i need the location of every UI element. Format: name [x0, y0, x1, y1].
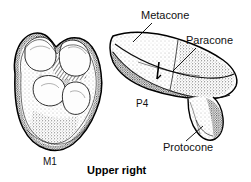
label-m1: M1 [43, 157, 57, 167]
figure-caption: Upper right [87, 165, 146, 176]
m1-molar-drawing [10, 28, 110, 156]
label-paracone: Paracone [186, 35, 233, 46]
tooth-illustration [0, 0, 251, 182]
label-p4: P4 [136, 99, 148, 109]
label-protocone: Protocone [163, 142, 213, 153]
label-metacone: Metacone [141, 10, 189, 21]
tooth-anatomy-figure: Metacone Paracone Protocone P4 M1 Upper … [0, 0, 251, 182]
protocone-lobe-drawing [185, 94, 230, 146]
